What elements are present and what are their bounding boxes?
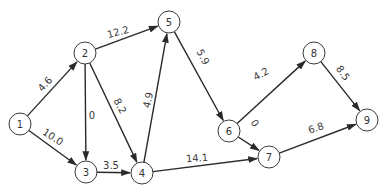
node-7: 7 <box>258 146 280 168</box>
edge-weight-label: 3.5 <box>103 160 119 171</box>
edge-weight-label: 4.6 <box>36 74 55 93</box>
edge-6-7 <box>238 137 259 150</box>
node-label: 9 <box>364 115 370 126</box>
edge-weight-label: 5.9 <box>194 47 211 66</box>
edge-weight-label: 0 <box>89 110 95 121</box>
node-4: 4 <box>131 162 153 184</box>
node-8: 8 <box>303 42 325 64</box>
node-label: 8 <box>311 48 317 59</box>
edge-5-6 <box>174 32 223 121</box>
node-label: 7 <box>266 152 272 163</box>
edge-weight-label: 14.1 <box>186 152 209 165</box>
node-label: 3 <box>83 167 89 178</box>
edge-2-3 <box>85 64 86 160</box>
node-label: 6 <box>226 126 232 137</box>
node-1: 1 <box>9 113 31 135</box>
edge-weight-label: 8.5 <box>334 63 352 82</box>
node-5: 5 <box>158 11 180 33</box>
node-6: 6 <box>218 120 240 142</box>
edge-6-8 <box>237 61 305 123</box>
node-label: 5 <box>166 17 172 28</box>
edge-weight-label: 4.2 <box>251 65 270 82</box>
edge-1-2 <box>27 62 76 116</box>
node-label: 1 <box>17 119 23 130</box>
edge-3-4 <box>97 172 130 173</box>
network-diagram: 4.610.012.208.23.54.914.15.94.208.56.8 1… <box>0 0 388 193</box>
node-label: 2 <box>82 48 88 59</box>
edge-weight-label: 6.8 <box>307 120 326 135</box>
edge-weight-label: 0 <box>249 117 262 128</box>
node-9: 9 <box>356 109 378 131</box>
edge-weight-label: 4.9 <box>141 91 155 109</box>
edge-2-4 <box>90 63 137 162</box>
node-label: 4 <box>139 168 145 179</box>
node-2: 2 <box>74 42 96 64</box>
edge-weight-label: 10.0 <box>41 126 66 147</box>
node-3: 3 <box>75 161 97 183</box>
